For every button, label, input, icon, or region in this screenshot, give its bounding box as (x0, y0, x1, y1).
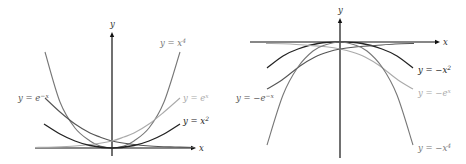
curve-label: y = −ex (417, 87, 451, 99)
curve-label: y = −x2 (417, 64, 451, 76)
y-axis-label: y (337, 5, 343, 15)
curve-label: y = e−x (17, 92, 49, 104)
curve-label: y = −e−x (235, 92, 275, 104)
x-axis-label: x (443, 37, 448, 47)
curve-label: y = ex (182, 92, 209, 104)
x-axis-label: x (199, 143, 204, 153)
curve-label: y = −x4 (417, 142, 451, 154)
left-graph-even-functions: xyy = x4y = e−xy = exy = x2 (17, 19, 209, 156)
y-axis-arrow-icon (338, 18, 342, 23)
curve-label: y = x4 (159, 37, 186, 49)
curve-label: y = x2 (182, 115, 209, 127)
x-axis-arrow-icon (435, 40, 440, 44)
right-graph-negated-functions: xyy = −x2y = −exy = −e−xy = −x4 (235, 5, 451, 158)
y-axis-label: y (109, 19, 115, 29)
curve-y-e-x (45, 98, 195, 148)
y-axis-arrow-icon (110, 32, 114, 37)
function-graphs-figure: xyy = x4y = e−xy = exy = x2 xyy = −x2y =… (0, 0, 466, 164)
